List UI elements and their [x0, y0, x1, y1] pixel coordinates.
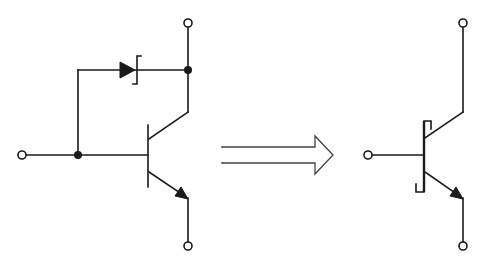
base-terminal-icon [18, 151, 26, 159]
collector-terminal-icon [459, 19, 467, 27]
emitter-arrow-icon [450, 187, 463, 199]
emitter-terminal-icon [459, 242, 467, 250]
collector-terminal-icon [184, 19, 192, 27]
emitter-arrow-icon [175, 187, 188, 199]
collector-lead [149, 112, 188, 139]
schottky-transistor-icon [416, 112, 463, 199]
base-terminal-icon [364, 151, 372, 159]
left-circuit [18, 19, 192, 250]
diagram-canvas [0, 0, 483, 265]
transformation-arrow-icon [222, 136, 333, 174]
junction-dot-collector [184, 66, 192, 74]
npn-transistor-icon [148, 112, 188, 199]
right-circuit [364, 19, 467, 250]
junction-dot-base [74, 151, 82, 159]
emitter-terminal-icon [184, 242, 192, 250]
